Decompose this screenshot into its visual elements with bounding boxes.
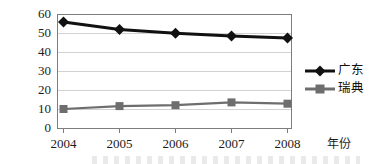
series-2-marker-2004 [60, 105, 68, 113]
x-tick-label-2007: 2007 [219, 136, 246, 151]
x-tick-label-2006: 2006 [163, 136, 190, 151]
y-tick-label-30: 30 [38, 63, 51, 78]
chart-canvas: 60 50 40 30 20 10 0 2004 2005 2006 2007 … [0, 0, 380, 164]
x-tick-label-2008: 2008 [275, 136, 301, 151]
y-axis-labels: 60 50 40 30 20 10 0 [38, 6, 51, 135]
series-2-marker-2006 [172, 101, 180, 109]
series-2-marker-2005 [116, 102, 124, 110]
y-tick-label-0: 0 [45, 120, 52, 135]
x-tick-label-2005: 2005 [107, 136, 133, 151]
series-2-marker-2008 [284, 100, 292, 108]
line-chart: 60 50 40 30 20 10 0 2004 2005 2006 2007 … [0, 0, 380, 164]
y-tick-label-50: 50 [38, 25, 51, 40]
square-icon [316, 85, 325, 94]
y-tick-label-40: 40 [38, 44, 51, 59]
y-tick-label-20: 20 [38, 82, 51, 97]
legend-label-ruidian: 瑞典 [338, 81, 364, 95]
x-axis-title: 年份 [327, 137, 351, 151]
series-2-marker-2007 [228, 98, 236, 106]
y-tick-label-60: 60 [38, 6, 51, 21]
y-tick-label-10: 10 [38, 101, 51, 116]
x-tick-label-2004: 2004 [51, 136, 78, 151]
legend-label-guangdong: 广东 [338, 63, 364, 77]
